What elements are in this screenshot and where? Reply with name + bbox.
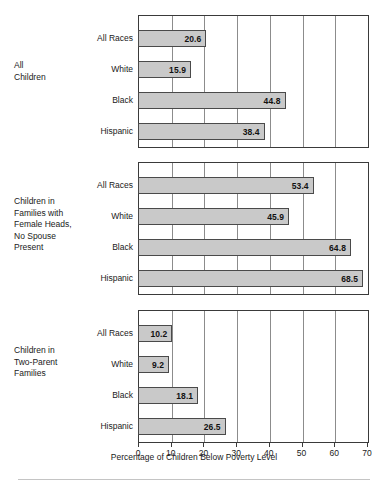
bar-row: White9.2 [139,356,368,373]
bar-value-label: 64.8 [329,243,350,253]
bar: 44.8 [138,92,286,109]
poverty-bar-chart-figure: AllChildrenAll Races20.6White15.9Black44… [0,0,388,489]
bar-row: Black44.8 [139,92,368,109]
category-label: Hispanic [43,123,133,140]
bar-row: Black18.1 [139,387,368,404]
x-axis-tick [269,443,270,447]
category-label: Black [43,92,133,109]
bar-value-label: 38.4 [243,127,264,137]
bar: 26.5 [138,418,226,435]
x-axis-tick [334,443,335,447]
category-label: Black [43,239,133,256]
x-axis-tick [138,443,139,447]
bar-value-label: 44.8 [264,96,285,106]
bar-value-label: 68.5 [341,274,362,284]
bar-row: Hispanic38.4 [139,123,368,140]
x-axis-tick [171,443,172,447]
bar: 38.4 [138,123,265,140]
bar-rows: All Races20.6White15.9Black44.8Hispanic3… [139,16,368,147]
category-label: White [43,61,133,78]
bar-row: Hispanic26.5 [139,418,368,435]
panel-group-label-line: Children in [14,196,110,208]
bar-value-label: 15.9 [169,65,190,75]
bar-row: All Races10.2 [139,325,368,342]
bar: 68.5 [138,270,363,287]
bar-value-label: 20.6 [184,34,205,44]
bar-value-label: 53.4 [292,181,313,191]
x-axis-tick [236,443,237,447]
category-label: White [43,208,133,225]
bar: 18.1 [138,387,198,404]
category-label: White [43,356,133,373]
bar-rows: All Races10.2White9.2Black18.1Hispanic26… [139,311,368,442]
category-label: All Races [43,325,133,342]
bar-row: White15.9 [139,61,368,78]
bar-value-label: 9.2 [152,360,168,370]
x-axis-tick [367,443,368,447]
bar: 20.6 [138,30,206,47]
plot-area: All Races10.2White9.2Black18.1Hispanic26… [138,310,369,443]
bar-row: White45.9 [139,208,368,225]
category-label: All Races [43,177,133,194]
panel-group-label-line: Children in [14,345,110,357]
bar: 64.8 [138,239,351,256]
bar-rows: All Races53.4White45.9Black64.8Hispanic6… [139,163,368,294]
category-label: All Races [43,30,133,47]
bar: 10.2 [138,325,172,342]
category-label: Hispanic [43,270,133,287]
bar-value-label: 18.1 [176,391,197,401]
category-label: Black [43,387,133,404]
category-label: Hispanic [43,418,133,435]
footer-divider [18,479,370,480]
plot-area: All Races53.4White45.9Black64.8Hispanic6… [138,162,369,295]
bar-row: All Races20.6 [139,30,368,47]
x-axis-tick [302,443,303,447]
x-axis-title: Percentage of Children Below Poverty Lev… [0,452,388,462]
bar: 9.2 [138,356,169,373]
bar: 15.9 [138,61,191,78]
bar-row: Black64.8 [139,239,368,256]
bar-value-label: 10.2 [150,329,171,339]
bar-row: Hispanic68.5 [139,270,368,287]
plot-area: All Races20.6White15.9Black44.8Hispanic3… [138,15,369,148]
bar-row: All Races53.4 [139,177,368,194]
x-axis-tick [203,443,204,447]
bar: 53.4 [138,177,314,194]
bar-value-label: 26.5 [204,422,225,432]
bar: 45.9 [138,208,289,225]
bar-value-label: 45.9 [267,212,288,222]
